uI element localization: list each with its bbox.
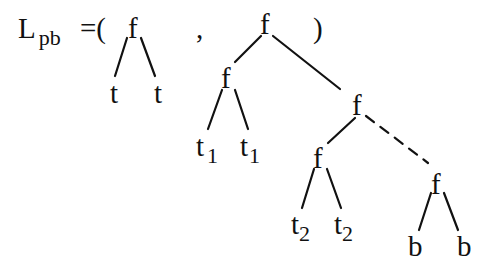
edge xyxy=(235,90,248,129)
t2-parent-node: f xyxy=(313,144,323,173)
leaf-subscript: 2 xyxy=(342,221,353,246)
b-leaf: b xyxy=(457,232,472,261)
diagram-canvas: Lpb =( , ) f t t f f t1 t1 f f t2 t2 f b… xyxy=(0,0,493,268)
t1-leaf: t1 xyxy=(240,132,260,161)
edge xyxy=(141,38,155,76)
t2-leaf: t2 xyxy=(334,210,353,239)
t2-leaf: t2 xyxy=(291,210,310,239)
b-parent-node: f xyxy=(431,170,441,199)
leaf-subscript: 1 xyxy=(249,143,260,168)
edge xyxy=(328,118,355,143)
tree1-leaf: t xyxy=(154,79,162,108)
leaf-base: t xyxy=(240,130,248,162)
lhs-symbol: L xyxy=(18,12,36,44)
edge xyxy=(419,193,431,230)
edge xyxy=(235,36,261,62)
edge xyxy=(302,169,314,208)
edge xyxy=(273,36,340,89)
tree1-root: f xyxy=(128,14,138,43)
leaf-subscript: 2 xyxy=(299,221,310,246)
dashed-edge xyxy=(366,116,428,163)
tree2-right-node: f xyxy=(352,91,362,120)
edge xyxy=(115,38,127,76)
b-leaf: b xyxy=(408,232,423,261)
leaf-base: t xyxy=(291,208,299,240)
leaf-base: t xyxy=(334,208,342,240)
tree1-leaf: t xyxy=(110,79,118,108)
leaf-subscript: 1 xyxy=(207,143,218,168)
lhs-subscript: pb xyxy=(39,25,61,50)
tree2-root: f xyxy=(260,10,270,39)
edge xyxy=(444,193,458,230)
equals-paren: =( xyxy=(80,14,106,43)
close-paren: ) xyxy=(313,14,323,43)
equation-lhs: Lpb xyxy=(18,14,61,43)
edge xyxy=(208,90,222,129)
t1-leaf: t1 xyxy=(196,132,218,161)
leaf-base: t xyxy=(196,130,204,162)
comma: , xyxy=(196,14,203,43)
edge xyxy=(327,169,341,208)
tree2-left-node: f xyxy=(221,64,231,93)
